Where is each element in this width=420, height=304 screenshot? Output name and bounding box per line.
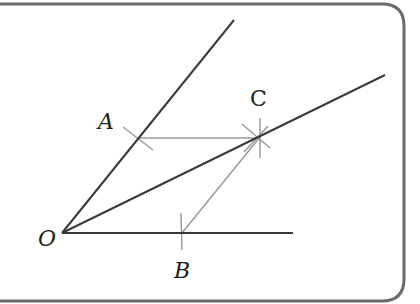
diagram-frame xyxy=(0,4,404,301)
label-A: A xyxy=(96,109,114,134)
angle-bisector-diagram: O A B C xyxy=(0,0,420,304)
arc-mark-B xyxy=(181,213,182,250)
label-B: B xyxy=(173,258,190,283)
segment-BC xyxy=(182,137,260,233)
label-O: O xyxy=(38,226,56,251)
label-C: C xyxy=(250,86,267,111)
bisector-ray xyxy=(62,75,385,233)
